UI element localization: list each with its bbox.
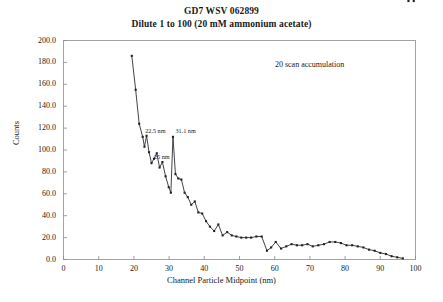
data-point-marker — [334, 241, 336, 243]
data-point-marker — [142, 136, 144, 138]
data-point-marker — [205, 220, 207, 222]
data-point-marker — [143, 146, 145, 148]
data-point-marker — [222, 234, 224, 236]
data-point-marker — [153, 158, 155, 160]
data-point-marker — [190, 204, 192, 206]
data-point-marker — [379, 252, 381, 254]
data-point-marker — [266, 250, 268, 252]
data-point-marker — [197, 211, 199, 213]
data-series-line — [132, 56, 403, 259]
data-point-marker — [306, 243, 308, 245]
data-point-marker — [368, 249, 370, 251]
data-point-marker — [357, 245, 359, 247]
data-point-marker — [177, 177, 179, 179]
plot-area: Counts Channel Particle Midpoint (nm) 0.… — [0, 0, 443, 302]
data-point-marker — [174, 173, 176, 175]
data-point-marker — [194, 200, 196, 202]
data-point-marker — [150, 162, 152, 164]
data-point-marker — [217, 223, 219, 225]
data-point-marker — [231, 234, 233, 236]
data-point-marker — [159, 166, 161, 168]
data-point-marker — [135, 89, 137, 91]
data-point-marker — [291, 243, 293, 245]
data-point-marker — [165, 175, 167, 177]
data-point-marker — [413, 0, 415, 2]
data-point-marker — [250, 237, 252, 239]
chart-root: GD7 WSV 062899 Dilute 1 to 100 (20 mM am… — [0, 0, 443, 302]
data-point-marker — [351, 244, 353, 246]
data-point-marker — [391, 255, 393, 257]
data-point-marker — [161, 161, 163, 163]
data-point-marker — [323, 243, 325, 245]
data-point-marker — [317, 244, 319, 246]
data-point-marker — [235, 235, 237, 237]
data-point-marker — [280, 248, 282, 250]
plot-frame — [64, 41, 416, 260]
data-point-marker — [170, 192, 172, 194]
data-point-marker — [180, 179, 182, 181]
data-point-marker — [345, 244, 347, 246]
data-point-marker — [201, 212, 203, 214]
data-point-marker — [407, 0, 409, 2]
data-point-marker — [184, 192, 186, 194]
data-point-marker — [240, 237, 242, 239]
data-point-marker — [156, 152, 158, 154]
data-point-marker — [146, 135, 148, 137]
data-point-marker — [255, 235, 257, 237]
data-point-marker — [148, 151, 150, 153]
data-point-marker — [270, 246, 272, 248]
data-point-marker — [226, 231, 228, 233]
data-point-marker — [275, 241, 277, 243]
data-point-marker — [245, 237, 247, 239]
data-plot — [0, 0, 443, 302]
data-point-marker — [138, 123, 140, 125]
data-point-marker — [396, 256, 398, 258]
data-point-marker — [362, 246, 364, 248]
data-point-marker — [374, 250, 376, 252]
data-point-marker — [209, 226, 211, 228]
data-point-marker — [187, 196, 189, 198]
data-point-marker — [402, 257, 404, 259]
data-point-marker — [329, 241, 331, 243]
data-point-marker — [172, 136, 174, 138]
data-point-marker — [340, 242, 342, 244]
data-point-marker — [385, 253, 387, 255]
data-point-marker — [261, 235, 263, 237]
data-point-marker — [312, 245, 314, 247]
data-point-marker — [296, 244, 298, 246]
data-point-marker — [168, 186, 170, 188]
data-point-marker — [131, 55, 133, 57]
data-point-marker — [301, 244, 303, 246]
data-point-marker — [285, 245, 287, 247]
data-point-marker — [213, 230, 215, 232]
